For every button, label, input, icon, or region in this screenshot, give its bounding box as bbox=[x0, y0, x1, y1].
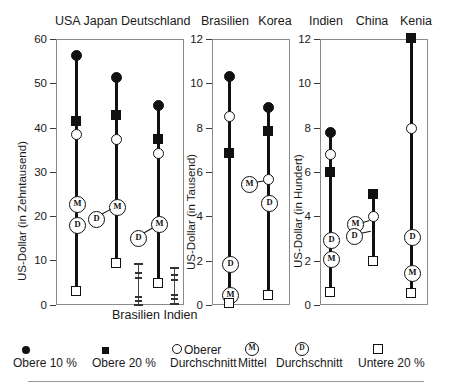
panel3-ticklabel-12: 12 bbox=[285, 34, 311, 44]
panel3-tick-6 bbox=[314, 172, 320, 173]
series-japan-oberer-durchschnitt-marker bbox=[111, 134, 122, 145]
legend-obere20-icon bbox=[102, 347, 109, 354]
inset-brasilien-obere10-marker bbox=[134, 263, 143, 265]
panel1-ticklabel-20: 20 bbox=[20, 211, 47, 221]
series-deutschland-obere10-marker bbox=[153, 100, 164, 111]
panel3-ticklabel-8: 8 bbox=[289, 123, 311, 133]
panel1-ticklabel-50: 50 bbox=[20, 78, 47, 88]
inset-indien-durchschnitt-marker bbox=[171, 294, 178, 296]
panel2-tick-2 bbox=[206, 261, 212, 262]
legend-obere20-label: Obere 20 % bbox=[92, 356, 156, 370]
series-usa-mittel-bubble: M bbox=[69, 196, 86, 213]
panel3-tick-12 bbox=[314, 39, 320, 40]
panel3-ticklabel-10: 10 bbox=[285, 78, 311, 88]
inset-indien-obere20-marker bbox=[171, 274, 178, 276]
series-deutschland-oberer-durchschnitt-marker bbox=[153, 148, 164, 159]
series-japan-obere10-marker bbox=[111, 72, 122, 83]
panel1-tick-60 bbox=[50, 39, 56, 40]
series-deutschland-stem bbox=[157, 105, 160, 283]
panel3-tick-4 bbox=[314, 216, 320, 217]
series-china-stem bbox=[372, 195, 375, 264]
series-usa-durchschnitt-bubble: D bbox=[69, 217, 86, 234]
panel1-x-caption: Brasilien Indien bbox=[112, 308, 197, 322]
inset-indien-obere10-marker bbox=[170, 267, 179, 269]
series-deutschland-mittel-bubble: M bbox=[151, 216, 168, 233]
panel2-tick-12 bbox=[206, 39, 212, 40]
panel1-ticklabel-10: 10 bbox=[20, 255, 47, 265]
panel3-ticklabel-6: 6 bbox=[289, 167, 311, 177]
inset-indien-untere20-marker bbox=[170, 303, 179, 305]
panel3-ticklabel-2: 2 bbox=[289, 256, 311, 266]
legend-obere10-icon bbox=[22, 346, 30, 354]
series-kenia-stem bbox=[410, 42, 413, 295]
panel1-tick-0 bbox=[50, 305, 56, 306]
footer-divider bbox=[28, 381, 424, 382]
series-indien-oberer-durchschnitt-marker bbox=[325, 149, 336, 160]
panel1-header: USA Japan Deutschland bbox=[55, 14, 185, 28]
panel1-ticklabel-40: 40 bbox=[20, 123, 47, 133]
series-korea-obere20-marker bbox=[263, 126, 273, 136]
panel1-tick-20 bbox=[50, 216, 56, 217]
series-kenia-durchschnitt-bubble: D bbox=[404, 229, 421, 246]
panel2-tick-0 bbox=[206, 305, 212, 306]
chart-figure: USA Japan Deutschland US-Dollar (in Zehn… bbox=[0, 0, 451, 389]
series-kenia-untere20-marker bbox=[406, 288, 416, 298]
inset-brasilien-obere20-marker bbox=[135, 272, 142, 274]
inset-brasilien-mittel-marker bbox=[135, 300, 142, 302]
series-brasilien-obere20-marker bbox=[224, 148, 234, 158]
legend-untere20-label: Untere 20 % bbox=[358, 356, 425, 370]
legend-obere10-label: Obere 10 % bbox=[13, 356, 77, 370]
inset-brasilien-oberer-durchschnitt-marker bbox=[135, 277, 142, 279]
panel2-header-korea: Korea bbox=[253, 14, 297, 28]
series-japan-stem bbox=[115, 77, 118, 263]
series-korea-oberer-durchschnitt-marker bbox=[263, 174, 274, 185]
series-japan-mittel-bubble: M bbox=[109, 199, 126, 216]
series-korea-durchschnitt-bubble: D bbox=[261, 195, 278, 212]
panel2-ticklabel-12: 12 bbox=[177, 34, 203, 44]
series-korea-mittel-bubble: M bbox=[241, 176, 258, 193]
series-brasilien-untere20-marker bbox=[224, 298, 234, 308]
panel2-tick-4 bbox=[206, 216, 212, 217]
series-indien-mittel-bubble: M bbox=[323, 251, 340, 268]
series-brasilien-oberer-durchschnitt-marker bbox=[224, 111, 235, 122]
series-usa-oberer-durchschnitt-marker bbox=[71, 129, 82, 140]
panel1-ticklabel-60: 60 bbox=[20, 34, 47, 44]
legend-oberer-durchschnitt-icon bbox=[172, 344, 182, 354]
series-korea-obere10-marker bbox=[263, 102, 274, 113]
series-kenia-oberer-durchschnitt-marker bbox=[406, 123, 417, 134]
inset-brasilien-durchschnitt-marker bbox=[135, 296, 142, 298]
panel2-ticklabel-2: 2 bbox=[181, 256, 203, 266]
panel3-ticklabel-0: 0 bbox=[289, 300, 311, 310]
series-brasilien-obere10-marker bbox=[224, 71, 235, 82]
panel3-header-indien: Indien bbox=[303, 14, 349, 28]
panel2-tick-6 bbox=[206, 172, 212, 173]
series-brasilien-durchschnitt-bubble: D bbox=[222, 256, 239, 273]
panel3-header-kenia: Kenia bbox=[396, 14, 436, 28]
panel3-ticklabel-4: 4 bbox=[289, 211, 311, 221]
series-usa-obere20-marker bbox=[71, 116, 81, 126]
inset-brasilien-stem bbox=[138, 264, 139, 304]
legend-durchschnitt-label: Durchschnitt bbox=[276, 356, 343, 370]
panel2-header-brasilien: Brasilien bbox=[196, 14, 254, 28]
series-indien-untere20-marker bbox=[325, 287, 335, 297]
legend-mittel-icon: M bbox=[245, 342, 259, 356]
inset-brasilien-untere20-marker bbox=[134, 304, 143, 306]
panel1-ticklabel-30: 30 bbox=[20, 167, 47, 177]
series-deutschland-obere20-marker bbox=[153, 134, 163, 144]
legend-oberer-durchschnitt-label-line1: Oberer bbox=[184, 343, 221, 357]
panel3-tick-8 bbox=[314, 128, 320, 129]
panel2-ticklabel-6: 6 bbox=[181, 167, 203, 177]
legend-mittel-label: Mittel bbox=[238, 356, 267, 370]
panel2-tick-10 bbox=[206, 83, 212, 84]
panel3-tick-0 bbox=[314, 305, 320, 306]
series-indien-obere10-marker bbox=[325, 127, 336, 138]
series-japan-obere20-marker bbox=[111, 110, 121, 120]
series-japan-untere20-marker bbox=[111, 258, 121, 268]
legend-oberer-durchschnitt-label-line2: Durchschnitt bbox=[170, 356, 237, 370]
series-deutschland-durchschnitt-bubble: D bbox=[130, 230, 147, 247]
panel2-ticklabel-8: 8 bbox=[181, 123, 203, 133]
legend-durchschnitt-icon: D bbox=[295, 342, 309, 356]
chart-legend: Obere 10 % Obere 20 % Oberer Durchschnit… bbox=[0, 338, 451, 368]
panel2-tick-8 bbox=[206, 128, 212, 129]
panel2-ticklabel-0: 0 bbox=[181, 300, 203, 310]
